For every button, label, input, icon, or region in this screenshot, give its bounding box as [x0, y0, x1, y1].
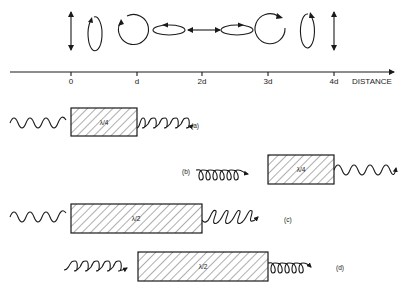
- elliptical-vertical-icon: [88, 17, 102, 51]
- linear-wave-in-c: [10, 211, 66, 222]
- tick-d: d: [135, 77, 139, 86]
- tick-4d: 4d: [330, 77, 339, 86]
- elliptical-horizontal-icon-2: [221, 23, 253, 36]
- helical-wave-out-d: [268, 263, 311, 273]
- label-a: (a): [191, 122, 199, 130]
- rotated-wave-out: [202, 210, 258, 223]
- plate-label-a: λ/4: [100, 119, 109, 126]
- label-c: (c): [284, 216, 292, 224]
- circular-polarization-icon-2: [255, 13, 285, 44]
- polarization-states: [71, 12, 334, 51]
- tick-2d: 2d: [198, 77, 207, 86]
- linear-wave-out: [334, 165, 396, 175]
- plate-a: λ/4 (a): [10, 108, 199, 136]
- circular-polarization-icon: [118, 15, 149, 45]
- plate-label-d: λ/2: [199, 263, 208, 270]
- elliptical-vertical-icon-2: [300, 12, 315, 48]
- helical-wave-out: [137, 118, 193, 128]
- plate-c: λ/2 (c): [10, 204, 292, 233]
- waveplate-diagram: 0 d 2d 3d 4d DISTANCE λ/4 (a) (b) λ/4 λ/…: [0, 0, 409, 293]
- plate-b: (b) λ/4: [182, 155, 396, 184]
- tick-3d: 3d: [264, 77, 273, 86]
- helical-wave-in: [196, 170, 248, 180]
- plate-d: λ/2 (d): [64, 252, 344, 281]
- plate-label-c: λ/2: [132, 215, 141, 222]
- plate-label-b: λ/4: [297, 166, 306, 173]
- label-d: (d): [336, 264, 344, 272]
- linear-wave-in: [10, 117, 66, 128]
- elliptical-horizontal-icon: [153, 23, 185, 36]
- helical-wave-in-d: [64, 261, 127, 271]
- label-b: (b): [182, 168, 190, 176]
- axis-label: DISTANCE: [352, 77, 392, 86]
- distance-axis: 0 d 2d 3d 4d DISTANCE: [10, 72, 394, 86]
- tick-0: 0: [69, 77, 74, 86]
